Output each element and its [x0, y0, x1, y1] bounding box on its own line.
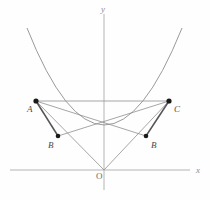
y-axis-label: y [101, 5, 105, 14]
point-label-B-left: B [48, 141, 54, 150]
x-axis-label: x [196, 166, 200, 175]
point-label-C: C [174, 105, 180, 114]
geometry-figure: A C B B x y O [0, 0, 209, 200]
line-A-to-B-right [36, 101, 146, 136]
point-B-left [56, 134, 61, 139]
point-label-B-right: B [151, 141, 157, 150]
point-B-right [144, 134, 149, 139]
point-label-A: A [27, 105, 33, 114]
point-C [166, 98, 171, 103]
segment-A-to-B-left [36, 101, 58, 136]
point-A [33, 98, 38, 103]
segment-C-to-B-right [146, 101, 169, 136]
line-A-to-origin [36, 101, 104, 170]
origin-label: O [96, 172, 103, 181]
geometry-canvas [0, 0, 209, 200]
